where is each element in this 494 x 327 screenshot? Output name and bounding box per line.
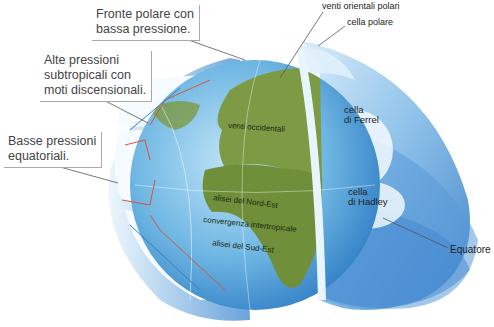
callout-line: moti discensionali. [44,83,146,98]
callout-line: Alte pressioni [44,53,146,68]
callout-subtropical-high: Alte pressioni subtropicali con moti dis… [40,51,152,102]
label-ferrel-cell: cella di Ferrel [344,105,379,125]
label-line: di Hadley [348,197,388,207]
label-line: di Ferrel [344,115,379,125]
label-polar-cell: cella polare [347,17,393,28]
callout-polar-front: Fronte polare con bassa pressione. [92,5,200,41]
label-hadley-cell: cella di Hadley [348,187,388,207]
callout-line: equatoriali. [8,149,96,164]
callout-line: bassa pressione. [96,22,194,37]
callout-equatorial-low: Basse pressioni equatoriali. [4,132,102,168]
callout-line: subtropicali con [44,68,146,83]
label-equator: Equatore [450,244,491,255]
earth-globe [130,60,380,310]
label-polar-easterlies: venti orientali polari [322,1,400,12]
callout-line: Basse pressioni [8,134,96,149]
callout-line: Fronte polare con [96,7,194,22]
